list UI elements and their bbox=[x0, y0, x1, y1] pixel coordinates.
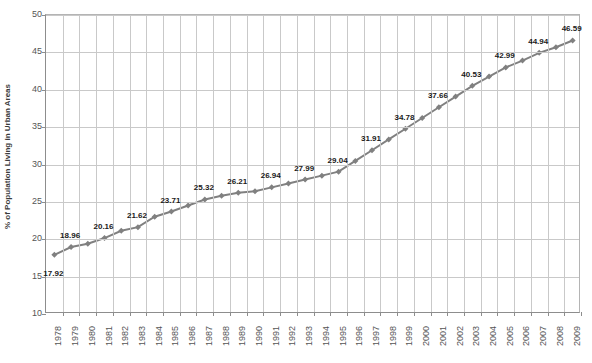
data-point-marker[interactable] bbox=[252, 188, 258, 194]
data-point-marker[interactable] bbox=[319, 173, 325, 179]
y-axis-tick-mark bbox=[42, 52, 46, 53]
data-point-label: 18.96 bbox=[60, 231, 80, 240]
data-point-label: 34.78 bbox=[394, 113, 414, 122]
gridline-horizontal bbox=[46, 15, 579, 16]
gridline-horizontal bbox=[46, 277, 579, 278]
y-axis-tick-mark bbox=[42, 127, 46, 128]
data-point-label: 42.99 bbox=[495, 51, 515, 60]
data-point-label: 29.04 bbox=[328, 156, 348, 165]
data-point-marker[interactable] bbox=[219, 193, 225, 199]
y-axis-tick-label: 30 bbox=[18, 159, 42, 169]
data-point-marker[interactable] bbox=[168, 209, 174, 215]
gridline-vertical bbox=[230, 15, 231, 312]
x-axis-tick-label: 1982 bbox=[120, 316, 130, 336]
gridline-horizontal bbox=[46, 90, 579, 91]
data-point-label: 27.99 bbox=[294, 164, 314, 173]
gridline-vertical bbox=[79, 15, 80, 312]
gridline-vertical bbox=[280, 15, 281, 312]
data-point-label: 40.53 bbox=[461, 70, 481, 79]
gridline-vertical bbox=[263, 15, 264, 312]
y-axis-tick-mark bbox=[42, 239, 46, 240]
x-axis-tick-label: 2003 bbox=[471, 316, 481, 336]
x-axis-tick-label: 1988 bbox=[221, 316, 231, 336]
data-point-label: 21.62 bbox=[127, 211, 147, 220]
gridline-vertical bbox=[96, 15, 97, 312]
y-axis-tick-labels: 504540353025201510 bbox=[18, 0, 42, 320]
x-axis-tick-label: 1980 bbox=[87, 316, 97, 336]
gridline-vertical bbox=[464, 15, 465, 312]
gridline-vertical bbox=[414, 15, 415, 312]
x-axis-tick-labels: 1978197919801981198219831984198519861987… bbox=[45, 316, 580, 362]
x-axis-tick-label: 1986 bbox=[187, 316, 197, 336]
y-axis-tick-label: 25 bbox=[18, 196, 42, 206]
data-point-label: 20.16 bbox=[94, 222, 114, 231]
x-axis-tick-label: 1987 bbox=[204, 316, 214, 336]
x-axis-tick-label: 2002 bbox=[455, 316, 465, 336]
data-point-marker[interactable] bbox=[269, 184, 275, 190]
x-axis-tick-label: 2009 bbox=[572, 316, 582, 336]
x-axis-tick-label: 2006 bbox=[521, 316, 531, 336]
x-axis-tick-label: 1989 bbox=[237, 316, 247, 336]
x-axis-tick-label: 1998 bbox=[388, 316, 398, 336]
x-axis-tick-label: 2005 bbox=[505, 316, 515, 336]
data-point-marker[interactable] bbox=[302, 177, 308, 183]
data-point-marker[interactable] bbox=[553, 44, 559, 50]
gridline-vertical bbox=[364, 15, 365, 312]
x-axis-tick-label: 2001 bbox=[438, 316, 448, 336]
gridline-vertical bbox=[380, 15, 381, 312]
gridline-horizontal bbox=[46, 202, 579, 203]
x-axis-tick-label: 1994 bbox=[321, 316, 331, 336]
data-point-label: 31.91 bbox=[361, 134, 381, 143]
data-point-marker[interactable] bbox=[118, 228, 124, 234]
data-point-label: 25.32 bbox=[194, 183, 214, 192]
y-axis-tick-label: 40 bbox=[18, 84, 42, 94]
data-point-marker[interactable] bbox=[285, 180, 291, 186]
data-point-marker[interactable] bbox=[85, 241, 91, 247]
y-axis-tick-mark bbox=[42, 314, 46, 315]
x-axis-tick-label: 2000 bbox=[421, 316, 431, 336]
data-point-label: 37.66 bbox=[428, 91, 448, 100]
data-point-marker[interactable] bbox=[51, 252, 57, 258]
chart-container: % of Population Living in Urban Areas 50… bbox=[0, 0, 592, 363]
x-axis-tick-label: 1981 bbox=[104, 316, 114, 336]
gridline-vertical bbox=[163, 15, 164, 312]
x-axis-tick-label: 1979 bbox=[70, 316, 80, 336]
x-axis-tick-label: 1983 bbox=[137, 316, 147, 336]
gridline-vertical bbox=[481, 15, 482, 312]
x-axis-tick-label: 1985 bbox=[170, 316, 180, 336]
gridline-vertical bbox=[397, 15, 398, 312]
data-point-label: 23.71 bbox=[160, 196, 180, 205]
data-point-marker[interactable] bbox=[519, 58, 525, 64]
x-axis-tick-label: 1995 bbox=[338, 316, 348, 336]
x-axis-tick-label: 1978 bbox=[53, 316, 63, 336]
x-axis-tick-label: 2008 bbox=[555, 316, 565, 336]
gridline-vertical bbox=[130, 15, 131, 312]
y-axis-title: % of Population Living in Urban Areas bbox=[0, 0, 16, 313]
y-axis-title-text: % of Population Living in Urban Areas bbox=[4, 84, 13, 229]
gridline-vertical bbox=[196, 15, 197, 312]
data-point-marker[interactable] bbox=[235, 190, 241, 196]
gridline-horizontal bbox=[46, 239, 579, 240]
gridline-vertical bbox=[431, 15, 432, 312]
y-axis-tick-label: 45 bbox=[18, 46, 42, 56]
data-point-marker[interactable] bbox=[185, 202, 191, 208]
gridline-vertical bbox=[213, 15, 214, 312]
y-axis-tick-mark bbox=[42, 15, 46, 16]
x-axis-tick-label: 1984 bbox=[154, 316, 164, 336]
gridline-vertical bbox=[146, 15, 147, 312]
x-axis-tick-label: 1991 bbox=[271, 316, 281, 336]
gridline-vertical bbox=[180, 15, 181, 312]
gridline-vertical bbox=[247, 15, 248, 312]
x-axis-tick-label: 2007 bbox=[538, 316, 548, 336]
y-axis-tick-label: 20 bbox=[18, 233, 42, 243]
gridline-vertical bbox=[531, 15, 532, 312]
data-point-label: 26.94 bbox=[261, 171, 281, 180]
data-point-label: 44.94 bbox=[528, 37, 548, 46]
data-point-marker[interactable] bbox=[68, 244, 74, 250]
x-axis-tick-label: 2004 bbox=[488, 316, 498, 336]
y-axis-tick-mark bbox=[42, 165, 46, 166]
gridline-vertical bbox=[564, 15, 565, 312]
data-point-label: 46.59 bbox=[562, 24, 582, 33]
x-axis-tick-label: 1996 bbox=[354, 316, 364, 336]
data-point-marker[interactable] bbox=[570, 37, 576, 43]
